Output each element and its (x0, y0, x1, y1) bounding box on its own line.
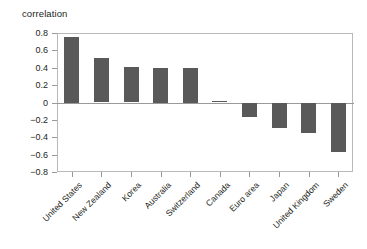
y-axis-tick (52, 172, 57, 173)
y-axis-tick-label: 0.6 (35, 45, 48, 55)
x-axis-tick (279, 172, 280, 177)
x-axis-category-label: Japan (267, 180, 291, 204)
correlation-bar-chart: correlation 0.80.60.40.20−0.2−0.4−0.6−0.… (0, 0, 367, 249)
y-axis-tick (52, 155, 57, 156)
x-axis-tick (131, 172, 132, 177)
x-axis-tick (72, 172, 73, 177)
y-axis-tick (52, 33, 57, 34)
y-axis-tick-label: −0.4 (30, 132, 48, 142)
x-axis-tick (309, 172, 310, 177)
chart-title: correlation (22, 8, 67, 19)
x-axis-category-label: Canada (204, 180, 232, 208)
x-axis-category-label: Euro area (228, 180, 262, 214)
zero-baseline (57, 103, 354, 104)
x-axis-tick (190, 172, 191, 177)
y-axis-tick (52, 50, 57, 51)
y-axis-tick-label: −0.8 (30, 167, 48, 177)
x-axis-tick (161, 172, 162, 177)
y-axis-tick (52, 120, 57, 121)
y-axis-tick-label: 0.2 (35, 80, 48, 90)
y-axis-tick-label: 0.4 (35, 63, 48, 73)
y-axis-tick (52, 68, 57, 69)
y-axis-tick (52, 137, 57, 138)
x-axis-category-label: Sweden (321, 180, 350, 209)
x-axis-tick (220, 172, 221, 177)
y-axis-tick-label: −0.2 (30, 115, 48, 125)
x-axis-tick (338, 172, 339, 177)
y-axis-tick-label: −0.6 (30, 150, 48, 160)
x-axis-category-label: Korea (120, 180, 143, 203)
x-axis-tick (249, 172, 250, 177)
y-axis-tick-label: 0 (43, 98, 48, 108)
y-axis-tick-label: 0.8 (35, 28, 48, 38)
y-axis-tick (52, 85, 57, 86)
y-axis-tick (52, 103, 57, 104)
x-axis-tick (101, 172, 102, 177)
